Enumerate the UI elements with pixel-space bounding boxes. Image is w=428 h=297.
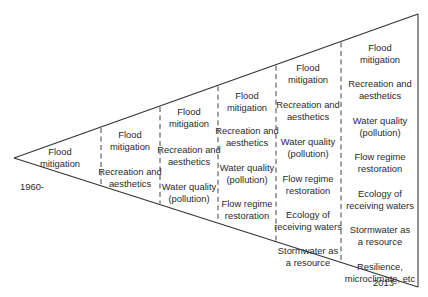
label-line: Water quality (220, 162, 274, 174)
label-line: a resource (350, 236, 410, 248)
label-line: Stormwater as (350, 224, 410, 236)
column-6-item-1: Floodmitigation (360, 42, 400, 66)
label-line: Recreation and (98, 166, 162, 178)
label-line: (pollution) (220, 174, 274, 186)
column-6-item-5: Ecology ofreceiving waters (346, 188, 414, 212)
column-3-item-1: Floodmitigation (169, 106, 209, 130)
label-line: Ecology of (346, 188, 414, 200)
start-year-label: 1960- (20, 181, 44, 193)
label-line: mitigation (227, 102, 267, 114)
label-line: Recreation and (276, 99, 340, 111)
label-line: aesthetics (276, 111, 340, 123)
column-5-item-4: Flow regimerestoration (282, 173, 333, 197)
label-line: Flood (227, 90, 267, 102)
label-line: mitigation (360, 54, 400, 66)
label-line: (pollution) (281, 148, 335, 160)
column-6-item-6: Stormwater asa resource (350, 224, 410, 248)
label-line: mitigation (288, 74, 328, 86)
label-line: Stormwater as (278, 245, 338, 257)
column-5-item-2: Recreation andaesthetics (276, 99, 340, 123)
label-line: aesthetics (157, 156, 221, 168)
label-line: restoration (221, 210, 272, 222)
column-4-item-1: Floodmitigation (227, 90, 267, 114)
column-5-item-5: Ecology ofreceiving waters (274, 209, 342, 233)
label-line: Flow regime (354, 151, 405, 163)
label-line: Flood (40, 146, 80, 158)
label-line: Ecology of (274, 209, 342, 221)
column-2-item-1: Floodmitigation (110, 129, 150, 153)
label-line: Flood (110, 129, 150, 141)
label-line: Recreation and (215, 125, 279, 137)
label-line: Recreation and (157, 144, 221, 156)
column-3-item-3: Water quality(pollution) (162, 181, 216, 205)
column-6-item-4: Flow regimerestoration (354, 151, 405, 175)
column-6-item-3: Water quality(pollution) (353, 115, 407, 139)
label-line: Flood (288, 62, 328, 74)
label-line: mitigation (169, 118, 209, 130)
end-year-label: 2013- (373, 277, 397, 289)
column-1-item-1: Floodmitigation (40, 146, 80, 170)
label-line: receiving waters (346, 200, 414, 212)
label-line: Water quality (353, 115, 407, 127)
column-4-item-3: Water quality(pollution) (220, 162, 274, 186)
label-line: aesthetics (215, 137, 279, 149)
label-line: aesthetics (98, 178, 162, 190)
label-line: Water quality (162, 181, 216, 193)
label-line: mitigation (110, 141, 150, 153)
label-line: Flood (360, 42, 400, 54)
label-line: mitigation (40, 158, 80, 170)
label-line: (pollution) (353, 127, 407, 139)
label-line: (pollution) (162, 193, 216, 205)
label-line: Flow regime (221, 198, 272, 210)
label-line: Resilience, (345, 261, 415, 273)
column-4-item-2: Recreation andaesthetics (215, 125, 279, 149)
label-line: Water quality (281, 136, 335, 148)
label-line: restoration (354, 163, 405, 175)
label-line: restoration (282, 185, 333, 197)
label-line: aesthetics (348, 90, 412, 102)
label-line: Flood (169, 106, 209, 118)
column-5-item-1: Floodmitigation (288, 62, 328, 86)
column-3-item-2: Recreation andaesthetics (157, 144, 221, 168)
label-line: a resource (278, 257, 338, 269)
column-5-item-6: Stormwater asa resource (278, 245, 338, 269)
column-6-item-2: Recreation andaesthetics (348, 78, 412, 102)
label-line: Recreation and (348, 78, 412, 90)
column-2-item-2: Recreation andaesthetics (98, 166, 162, 190)
label-line: receiving waters (274, 221, 342, 233)
column-4-item-4: Flow regimerestoration (221, 198, 272, 222)
label-line: Flow regime (282, 173, 333, 185)
column-5-item-3: Water quality(pollution) (281, 136, 335, 160)
